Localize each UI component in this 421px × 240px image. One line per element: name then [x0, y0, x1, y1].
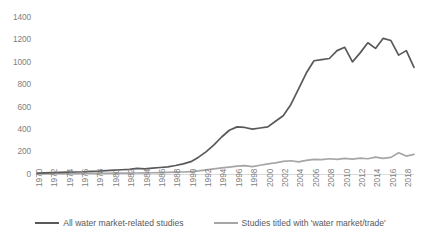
x-axis-tick-label: 2012 [357, 176, 368, 187]
x-axis-tick-label: 1982 [126, 176, 137, 187]
chart-legend: All water market-related studiesStudies … [0, 214, 421, 240]
y-axis-tick-label: 400 [1, 125, 31, 133]
y-axis-tick-label: 1200 [1, 35, 31, 43]
x-axis-tick-label: 1984 [142, 176, 153, 187]
x-axis-tick-label: 1972 [49, 176, 60, 187]
y-axis-tick-label: 1000 [1, 58, 31, 66]
x-axis-tick-label: 2010 [342, 176, 353, 187]
legend-color-swatch [214, 222, 238, 224]
legend-color-swatch [35, 222, 59, 224]
y-axis-tick-label: 800 [1, 80, 31, 88]
x-axis-tick-label: 1976 [80, 176, 91, 187]
x-axis: 1970197219741976197819801982198419861988… [37, 176, 414, 216]
x-axis-tick-label: 1992 [203, 176, 214, 187]
x-axis-tick-label: 1986 [157, 176, 168, 187]
y-axis: 0200400600800100012001400 [0, 0, 37, 190]
plot-svg [37, 17, 414, 174]
x-axis-tick-label: 2006 [311, 176, 322, 187]
x-axis-tick-label: 2014 [372, 176, 383, 187]
x-axis-tick-label: 1996 [234, 176, 245, 187]
x-axis-tick-label: 2000 [265, 176, 276, 187]
y-axis-tick-label: 1400 [1, 13, 31, 21]
x-axis-tick-label: 1970 [34, 176, 45, 187]
series-line-titled-studies [37, 38, 414, 173]
plot-area [37, 17, 414, 174]
chart-container: 0200400600800100012001400 19701972197419… [0, 0, 421, 240]
x-axis-tick-label: 1994 [218, 176, 229, 187]
x-axis-tick-label: 2002 [280, 176, 291, 187]
x-axis-tick-label: 2018 [403, 176, 414, 187]
x-axis-tick-label: 1988 [172, 176, 183, 187]
x-axis-tick-label: 1998 [249, 176, 260, 187]
x-axis-tick-label: 1980 [111, 176, 122, 187]
y-axis-tick-label: 200 [1, 147, 31, 155]
x-axis-tick-label: 2004 [295, 176, 306, 187]
legend-label: Studies titled with 'water market/trade' [242, 218, 386, 228]
x-axis-tick-label: 2016 [388, 176, 399, 187]
legend-label: All water market-related studies [63, 218, 183, 228]
legend-item[interactable]: Studies titled with 'water market/trade' [214, 218, 386, 228]
x-axis-tick-label: 1974 [65, 176, 76, 187]
y-axis-tick-label: 600 [1, 103, 31, 111]
x-axis-tick-label: 1990 [188, 176, 199, 187]
x-axis-tick-label: 2008 [326, 176, 337, 187]
y-axis-tick-label: 0 [1, 170, 31, 178]
x-axis-tick-label: 1978 [95, 176, 106, 187]
legend-item[interactable]: All water market-related studies [35, 218, 183, 228]
